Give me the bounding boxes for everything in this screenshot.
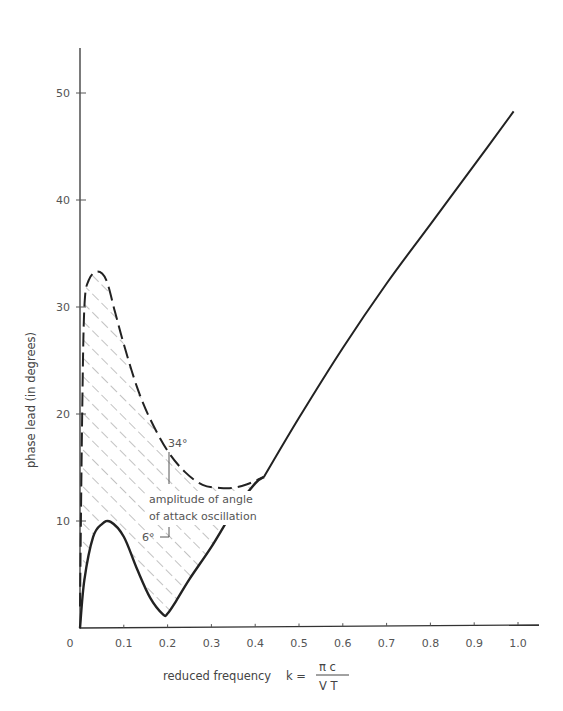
y-tick-label: 50 bbox=[56, 87, 70, 100]
x-tick-label: 0.2 bbox=[159, 637, 177, 650]
x-tick-label: 0.7 bbox=[378, 637, 396, 650]
x-axis-title: reduced frequency k = π c V T bbox=[163, 660, 349, 693]
y-axis-title: phase lead (in degrees) bbox=[24, 332, 38, 468]
x-tick-label: 0.1 bbox=[115, 637, 133, 650]
curve-common bbox=[264, 111, 514, 477]
x-tick-label: 0.9 bbox=[465, 637, 483, 650]
x-tick-label: 0.8 bbox=[422, 637, 440, 650]
annotation-6deg: 6° bbox=[142, 531, 155, 544]
x-tick-label: 0.6 bbox=[334, 637, 352, 650]
x-tick-label: 0.4 bbox=[246, 637, 264, 650]
x-tick-label: 1.0 bbox=[509, 637, 527, 650]
annotation-34deg: 34° bbox=[168, 437, 188, 450]
y-tick-label: 30 bbox=[56, 301, 70, 314]
annotation-amplitude-line2: of attack oscillation bbox=[149, 510, 257, 523]
x-tick-label: 0 bbox=[67, 637, 74, 650]
y-tick-label: 40 bbox=[56, 194, 70, 207]
x-tick-label: 0.3 bbox=[203, 637, 221, 650]
x-tick-label: 0.5 bbox=[290, 637, 308, 650]
svg-text:π c: π c bbox=[319, 660, 336, 674]
y-tick-label: 20 bbox=[56, 408, 70, 421]
annotation-amplitude-line1: amplitude of angle bbox=[149, 493, 253, 506]
y-tick-label: 10 bbox=[56, 515, 70, 528]
svg-text:k =: k = bbox=[286, 669, 306, 683]
phase-lead-chart: 00.10.20.30.40.50.60.70.80.91.0 10203040… bbox=[0, 0, 563, 711]
svg-text:V T: V T bbox=[319, 679, 339, 693]
x-axis bbox=[80, 625, 539, 628]
svg-text:reduced frequency: reduced frequency bbox=[163, 669, 271, 683]
